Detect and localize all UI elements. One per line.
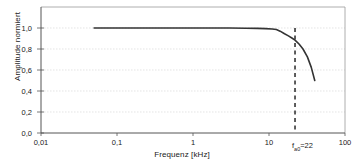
chart-figure: Amplitude normiert Frequenz [kHz] 1,0 0,…: [0, 0, 364, 168]
amplitude-response-curve: [94, 28, 315, 81]
gridlines: [41, 28, 345, 112]
plot-svg: [0, 0, 364, 168]
